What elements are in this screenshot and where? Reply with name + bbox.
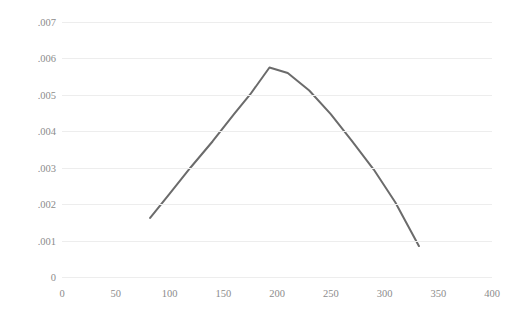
x-axis: 050100150200250300350400 <box>0 288 518 306</box>
gridline <box>62 241 492 242</box>
x-tick-label: 400 <box>484 288 500 299</box>
gridline <box>62 95 492 96</box>
y-tick-label: .004 <box>10 126 56 137</box>
x-tick-label: 300 <box>377 288 393 299</box>
chart-title <box>0 0 518 2</box>
gridline <box>62 204 492 205</box>
y-tick-label: .003 <box>10 162 56 173</box>
y-tick-label: .002 <box>10 199 56 210</box>
gridline <box>62 168 492 169</box>
curve-series <box>62 22 492 277</box>
x-tick-label: 50 <box>111 288 122 299</box>
plot-area <box>62 22 492 277</box>
x-tick-label: 0 <box>59 288 64 299</box>
y-tick-label: 0 <box>10 272 56 283</box>
x-tick-label: 150 <box>215 288 231 299</box>
x-tick-label: 200 <box>269 288 285 299</box>
gridline <box>62 131 492 132</box>
x-tick-label: 250 <box>323 288 339 299</box>
y-tick-label: .007 <box>10 17 56 28</box>
x-tick-label: 100 <box>162 288 178 299</box>
y-axis: 0.001.002.003.004.005.006.007 <box>6 22 56 277</box>
gridline <box>62 22 492 23</box>
gridline <box>62 58 492 59</box>
x-tick-label: 350 <box>430 288 446 299</box>
y-tick-label: .005 <box>10 89 56 100</box>
y-tick-label: .001 <box>10 235 56 246</box>
chart-container: 0.001.002.003.004.005.006.007 0501001502… <box>0 0 518 321</box>
y-tick-label: .006 <box>10 53 56 64</box>
gridline <box>62 277 492 278</box>
